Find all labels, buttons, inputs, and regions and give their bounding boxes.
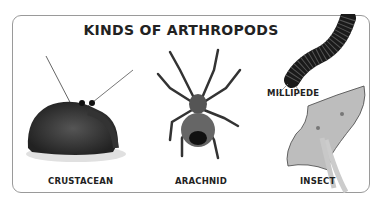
label-millipede: MILLIPEDE xyxy=(267,88,319,98)
crustacean-image xyxy=(18,48,138,168)
label-crustacean: CRUSTACEAN xyxy=(48,176,113,186)
millipede-image xyxy=(270,14,360,94)
arachnid-image xyxy=(148,48,248,166)
label-arachnid: ARACHNID xyxy=(175,176,227,186)
label-insect: INSECT xyxy=(300,176,335,186)
